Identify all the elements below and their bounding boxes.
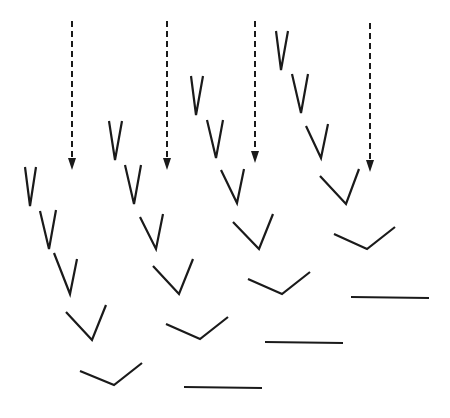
v-shape-2 bbox=[207, 120, 223, 158]
v-shape-5 bbox=[334, 227, 395, 249]
sequence-1 bbox=[25, 167, 142, 385]
sequence-4 bbox=[276, 31, 429, 298]
sequence-3 bbox=[191, 76, 343, 343]
flat-line-shape-6 bbox=[184, 387, 262, 388]
flat-line-shape-6 bbox=[265, 342, 343, 343]
v-shape-5 bbox=[80, 363, 142, 385]
v-shape-1 bbox=[109, 121, 122, 160]
v-shape-2 bbox=[292, 74, 308, 113]
arrowhead-icon bbox=[366, 160, 374, 172]
v-shape-3 bbox=[221, 169, 244, 203]
arrowhead-icon bbox=[163, 158, 171, 170]
v-shape-3 bbox=[140, 214, 163, 249]
v-shape-4 bbox=[233, 214, 273, 249]
v-shape-5 bbox=[166, 317, 228, 339]
v-shape-3 bbox=[306, 124, 328, 158]
v-shape-1 bbox=[276, 31, 288, 70]
v-shape-4 bbox=[153, 259, 193, 294]
shapes-group bbox=[25, 31, 429, 388]
v-shape-4 bbox=[320, 169, 359, 204]
arrowhead-icon bbox=[68, 158, 76, 170]
v-shape-4 bbox=[66, 305, 106, 340]
v-shape-5 bbox=[248, 272, 310, 294]
arrowhead-icon bbox=[251, 151, 259, 163]
v-shape-2 bbox=[40, 210, 56, 249]
flat-line-shape-6 bbox=[351, 297, 429, 298]
opening-angle-diagram bbox=[0, 0, 450, 418]
v-shape-1 bbox=[191, 76, 203, 115]
v-shape-3 bbox=[54, 253, 77, 294]
diagram-canvas bbox=[0, 0, 450, 418]
v-shape-1 bbox=[25, 167, 36, 206]
sequence-2 bbox=[109, 121, 262, 388]
v-shape-2 bbox=[125, 165, 141, 204]
